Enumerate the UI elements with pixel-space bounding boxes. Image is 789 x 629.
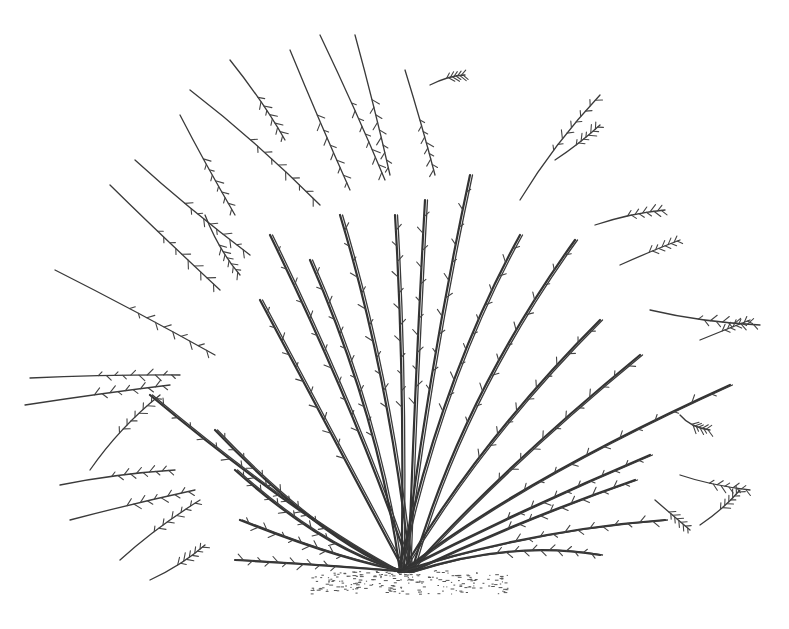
- loose-sprigs: [25, 35, 760, 580]
- shrub-illustration: [0, 0, 789, 629]
- main-stems: [150, 175, 733, 572]
- ground-stipple: [311, 569, 509, 594]
- shrub-drawing: [0, 0, 789, 629]
